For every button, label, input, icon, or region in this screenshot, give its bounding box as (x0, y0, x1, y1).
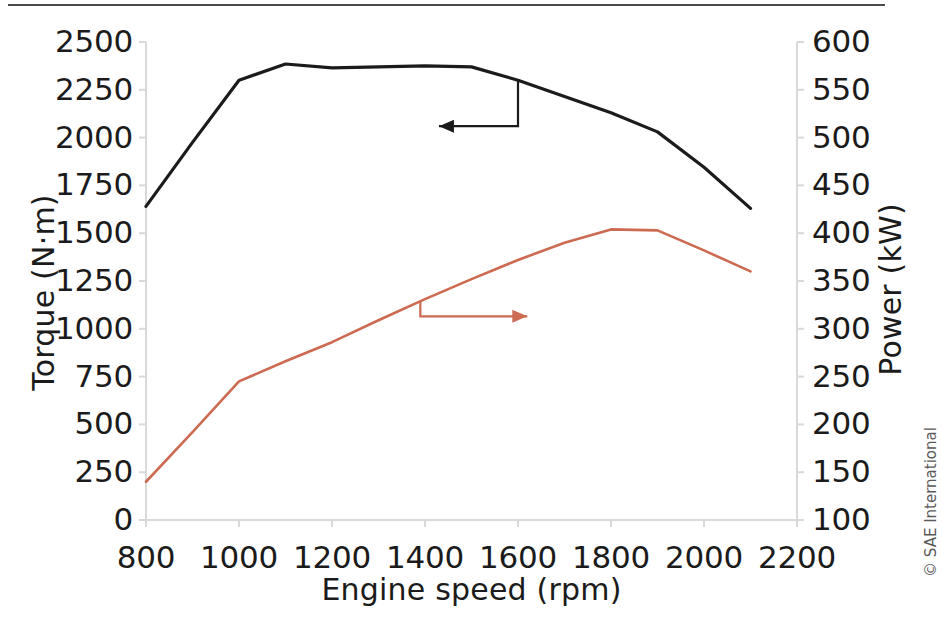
power-pointer-arrow (420, 301, 527, 323)
torque-pointer-arrow (439, 80, 518, 132)
y-tick-label-right: 500 (812, 122, 902, 153)
y-tick-label-left: 1500 (20, 217, 133, 248)
x-axis-title: Engine speed (rpm) (146, 572, 797, 607)
y-tick-label-right: 600 (812, 26, 902, 57)
copyright-credit: © SAE International (922, 407, 940, 597)
y-tick-label-left: 2000 (20, 122, 133, 153)
y-tick-label-left: 1750 (20, 169, 133, 200)
y-tick-label-left: 0 (20, 504, 133, 535)
y-tick-label-left: 1250 (20, 265, 133, 296)
y-tick-label-left: 750 (20, 361, 133, 392)
series-line-torque (146, 64, 751, 208)
annotation-arrowhead-right (512, 310, 527, 323)
annotation-elbow-line (420, 301, 527, 316)
y-tick-label-left: 250 (20, 456, 133, 487)
y-tick-label-right: 150 (812, 456, 902, 487)
y-tick-label-left: 500 (20, 408, 133, 439)
engine-performance-figure: Torque (N·m) Power (kW) Engine speed (rp… (0, 0, 943, 621)
chart-canvas (0, 0, 943, 621)
y-tick-label-right: 350 (812, 265, 902, 296)
y-tick-label-left: 2500 (20, 26, 133, 57)
y-tick-label-right: 100 (812, 504, 902, 535)
y-tick-label-right: 550 (812, 74, 902, 105)
annotation-arrowhead-left (439, 120, 454, 133)
y-tick-label-right: 300 (812, 313, 902, 344)
y-tick-label-left: 2250 (20, 74, 133, 105)
series-line-power (146, 229, 751, 481)
x-tick-label: 2200 (737, 542, 857, 573)
y-tick-label-right: 400 (812, 217, 902, 248)
y-tick-label-left: 1000 (20, 313, 133, 344)
y-tick-label-right: 200 (812, 408, 902, 439)
annotation-elbow-line (439, 80, 518, 126)
y-tick-label-right: 450 (812, 169, 902, 200)
y-tick-label-right: 250 (812, 361, 902, 392)
